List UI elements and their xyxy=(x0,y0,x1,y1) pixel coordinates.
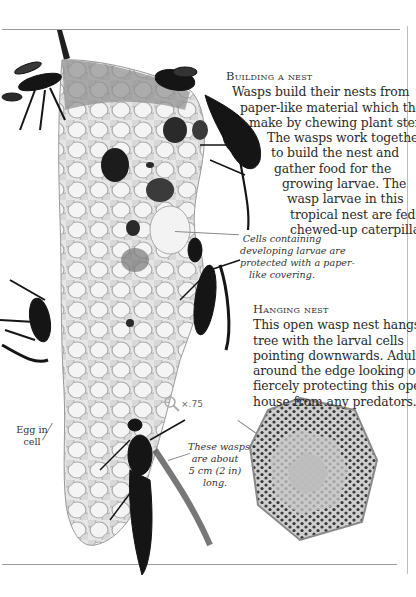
caption-line: Cells containing xyxy=(240,233,324,245)
scale-value: ×.75 xyxy=(181,399,203,409)
hanging-nest-heading: Hanging nest xyxy=(253,302,413,317)
building-line: gather food for the xyxy=(0,161,406,176)
building-line: Wasps build their nests from xyxy=(0,84,406,99)
building-line: to build the nest and xyxy=(0,145,406,160)
hanging-line: fiercely protecting this open xyxy=(253,378,413,393)
building-line: growing larvae. The xyxy=(0,176,406,191)
building-line: The wasps work together xyxy=(0,130,406,145)
building-line: chewed-up caterpillars. xyxy=(0,222,406,237)
caption-line: cell xyxy=(12,436,52,448)
hanging-nest-section: Hanging nest This open wasp nest hangs i… xyxy=(253,302,413,409)
hanging-line: tree with the larval cells xyxy=(253,333,413,348)
caption-line: long. xyxy=(188,477,242,489)
hanging-line: pointing downwards. Adults sit xyxy=(253,348,413,363)
size-caption: These wasps are about 5 cm (2 in) long. xyxy=(188,441,242,489)
building-line: make by chewing plant stems. xyxy=(0,115,406,130)
building-line: tropical nest are fed on xyxy=(0,207,406,222)
cells-caption: Cells containing developing larvae are p… xyxy=(240,233,324,281)
egg-caption: Egg in cell xyxy=(12,424,52,448)
building-nest-section: Building a nest Wasps build their nests … xyxy=(0,69,406,237)
caption-line: are about xyxy=(188,453,242,465)
caption-line: These wasps xyxy=(188,441,242,453)
scale-indicator: ×.75 xyxy=(163,395,203,413)
caption-line: developing larvae are xyxy=(240,245,324,257)
building-nest-heading: Building a nest xyxy=(0,69,406,84)
hanging-line: This open wasp nest hangs in a xyxy=(253,317,413,332)
hanging-line: house from any predators. xyxy=(253,394,413,409)
open-nest xyxy=(250,398,377,540)
building-line: paper-like material which they xyxy=(0,100,406,115)
magnifier-icon xyxy=(163,395,181,413)
caption-line: like covering. xyxy=(240,269,324,281)
building-line: wasp larvae in this xyxy=(0,191,406,206)
caption-line: 5 cm (2 in) xyxy=(188,465,242,477)
hanging-line: around the edge looking out, xyxy=(253,363,413,378)
caption-line: Egg in xyxy=(12,424,52,436)
caption-line: protected with a paper- xyxy=(240,257,324,269)
